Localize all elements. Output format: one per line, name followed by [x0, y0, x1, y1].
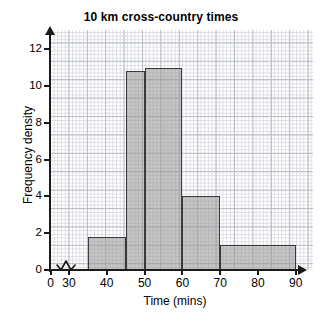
- y-axis-title: Frequency density: [21, 75, 35, 235]
- x-tick-mark: [144, 269, 146, 275]
- x-tick-mark: [257, 269, 259, 275]
- x-axis-line: [50, 269, 300, 271]
- histogram-bar: [88, 237, 126, 270]
- histogram-bar: [220, 245, 296, 270]
- histogram-screenshot: 10 km cross-country times 024681012 0304…: [0, 0, 322, 321]
- chart-title: 10 km cross-country times: [0, 10, 322, 24]
- x-tick-label: 80: [244, 277, 272, 290]
- x-tick-mark: [181, 269, 183, 275]
- histogram-bar: [126, 71, 145, 270]
- y-tick-mark: [44, 159, 50, 161]
- x-axis-title: Time (mins): [50, 294, 300, 308]
- plot-area: [50, 30, 313, 270]
- histogram-bar: [182, 196, 220, 270]
- y-axis-line: [49, 34, 51, 272]
- y-tick-label: 12: [18, 43, 42, 54]
- x-tick-mark: [68, 269, 70, 275]
- x-tick-mark: [219, 269, 221, 275]
- y-axis-arrow-icon: [45, 26, 55, 35]
- x-tick-mark: [106, 269, 108, 275]
- y-tick-mark: [44, 195, 50, 197]
- x-tick-label: 60: [168, 277, 196, 290]
- axis-break-zigzag-icon: [56, 259, 76, 273]
- x-tick-mark: [295, 269, 297, 275]
- y-tick-label: 0: [18, 264, 42, 275]
- y-tick-mark: [44, 122, 50, 124]
- x-tick-label: 30: [55, 277, 83, 290]
- y-tick-mark: [44, 85, 50, 87]
- x-tick-label: 40: [93, 277, 121, 290]
- histogram-bar: [145, 68, 183, 271]
- y-tick-mark: [44, 48, 50, 50]
- x-tick-mark: [50, 269, 52, 275]
- y-tick-mark: [44, 232, 50, 234]
- x-tick-label: 70: [206, 277, 234, 290]
- x-tick-label: 50: [131, 277, 159, 290]
- x-tick-label: 90: [282, 277, 310, 290]
- x-axis-arrow-icon: [298, 265, 307, 275]
